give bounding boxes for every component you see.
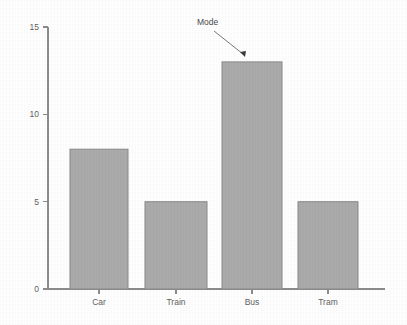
y-tick-label: 5 — [34, 197, 39, 207]
bar-tram — [298, 202, 358, 289]
annotation-mode: Mode — [197, 17, 246, 57]
x-tick-label-car: Car — [92, 297, 106, 307]
y-tick-label: 15 — [30, 22, 40, 32]
chart-canvas: 0 5 10 15 Car Train Bus Tram Mode — [0, 0, 407, 325]
bar-car — [70, 149, 128, 289]
y-tick-label: 10 — [30, 109, 40, 119]
annotation-label: Mode — [197, 17, 219, 27]
bar-chart: 0 5 10 15 Car Train Bus Tram Mode — [0, 0, 407, 325]
bar-train — [145, 202, 207, 289]
y-tick-label: 0 — [34, 284, 39, 294]
x-tick-label-bus: Bus — [245, 297, 260, 307]
x-tick-label-tram: Tram — [318, 297, 338, 307]
x-axis-ticks — [99, 289, 328, 294]
x-tick-label-train: Train — [166, 297, 185, 307]
annotation-arrow-head — [240, 51, 246, 57]
y-axis-tick-labels: 0 5 10 15 — [30, 22, 40, 294]
bars-group — [70, 62, 358, 289]
annotation-arrow-line — [214, 31, 243, 54]
x-axis-tick-labels: Car Train Bus Tram — [92, 297, 338, 307]
y-axis-ticks — [43, 27, 48, 289]
bar-bus — [222, 62, 282, 289]
